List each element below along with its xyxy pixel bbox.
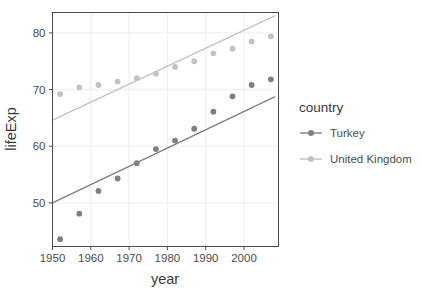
x-tick-label: 1980 [155,252,181,264]
data-point [230,93,236,99]
data-point [230,46,236,52]
legend-key-point [308,130,314,136]
data-point [76,211,82,217]
life-expectancy-scatter-plot: 195019601970198019902000 50607080 year l… [0,0,422,296]
legend-title: country [299,100,344,115]
legend-item-label: Turkey [330,127,365,139]
data-point [134,75,140,81]
legend-key-point [308,156,314,162]
data-point [172,64,178,70]
data-point [249,82,255,88]
data-point [115,79,121,85]
legend-item-label: United Kingdom [330,153,412,165]
x-tick-label: 1960 [78,252,104,264]
y-tick-label: 50 [33,197,46,209]
x-tick-label: 1950 [40,252,66,264]
data-point [96,188,102,194]
x-tick-label: 1970 [116,252,142,264]
y-axis: 50607080 [33,27,53,209]
data-point [249,38,255,44]
data-point [172,138,178,144]
data-point [96,82,102,88]
chart-container: 195019601970198019902000 50607080 year l… [0,0,422,296]
x-tick-label: 2000 [231,252,257,264]
legend: country TurkeyUnited Kingdom [299,100,412,165]
data-point [268,76,274,82]
y-axis-title: lifeExp [3,107,19,151]
data-point [153,71,159,77]
y-tick-label: 60 [33,140,46,152]
data-point [191,126,197,132]
data-point [115,176,121,182]
legend-item-united-kingdom[interactable]: United Kingdom [300,153,412,165]
data-point [76,84,82,90]
plot-panel [53,13,279,247]
legend-item-turkey[interactable]: Turkey [300,127,365,139]
x-axis: 195019601970198019902000 [40,247,257,264]
x-axis-title: year [151,271,179,287]
data-point [268,33,274,39]
data-point [210,109,216,115]
data-point [134,160,140,166]
data-point [57,236,63,242]
data-point [210,50,216,56]
data-point [57,91,63,97]
legend-entries: TurkeyUnited Kingdom [300,127,412,165]
x-tick-label: 1990 [193,252,219,264]
data-point [191,58,197,64]
data-point [153,146,159,152]
y-tick-label: 80 [33,27,46,39]
y-tick-label: 70 [33,84,46,96]
